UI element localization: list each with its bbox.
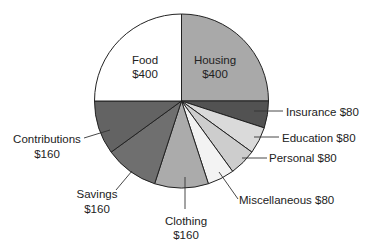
label-personal: Personal $80 — [269, 152, 337, 164]
label-clothing-name: Clothing — [165, 215, 207, 227]
label-miscellaneous: Miscellaneous $80 — [239, 194, 334, 206]
label-savings-value: $160 — [84, 203, 110, 215]
leader-savings — [116, 171, 132, 190]
label-insurance: Insurance $80 — [286, 106, 359, 118]
label-contributions-value: $160 — [34, 148, 60, 160]
label-education: Education $80 — [282, 132, 356, 144]
pie-slices — [95, 14, 269, 188]
pie-chart: Food $400 Housing $400 Insurance $80 Edu… — [0, 0, 367, 250]
leader-miscellaneous — [219, 172, 238, 199]
label-housing-name: Housing — [194, 54, 236, 66]
label-clothing-value: $160 — [173, 229, 199, 241]
label-contributions-name: Contributions — [13, 133, 81, 145]
label-savings-name: Savings — [77, 188, 118, 200]
label-housing-value: $400 — [202, 68, 228, 80]
label-food-name: Food — [132, 54, 158, 66]
label-food-value: $400 — [132, 68, 158, 80]
